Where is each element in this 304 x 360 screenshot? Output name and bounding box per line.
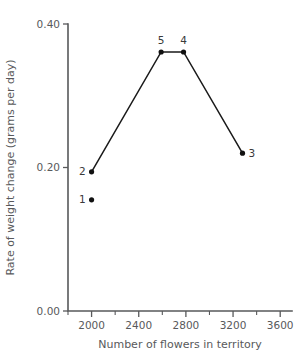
data-point-4[interactable] — [181, 49, 186, 54]
series-line — [92, 52, 243, 172]
data-point-5[interactable] — [159, 49, 164, 54]
y-tick-label-2: 0.40 — [37, 18, 60, 30]
x-tick-label-2: 2800 — [173, 319, 200, 331]
data-point-2[interactable] — [89, 169, 94, 174]
data-point-label-2: 2 — [79, 165, 86, 177]
x-tick-label-0: 2000 — [78, 319, 105, 331]
x-axis-title: Number of flowers in territory — [98, 338, 262, 351]
x-tick-label-3: 3200 — [220, 319, 247, 331]
data-point-label-1: 1 — [79, 193, 86, 205]
x-tick-label-4: 3600 — [267, 319, 294, 331]
data-point-label-3: 3 — [248, 147, 255, 159]
chart-figure: 0.000.200.402000240028003200360012543Num… — [0, 0, 304, 360]
y-tick-label-1: 0.20 — [37, 161, 60, 173]
data-point-label-4: 4 — [180, 34, 187, 46]
x-tick-label-1: 2400 — [125, 319, 152, 331]
y-axis-title: Rate of weight change (grams per day) — [4, 59, 17, 275]
line-chart: 0.000.200.402000240028003200360012543Num… — [0, 0, 304, 360]
data-point-label-5: 5 — [158, 34, 165, 46]
data-point-3[interactable] — [240, 151, 245, 156]
data-point-1[interactable] — [89, 197, 94, 202]
y-tick-label-0: 0.00 — [37, 305, 60, 317]
axis-lines — [68, 24, 292, 311]
